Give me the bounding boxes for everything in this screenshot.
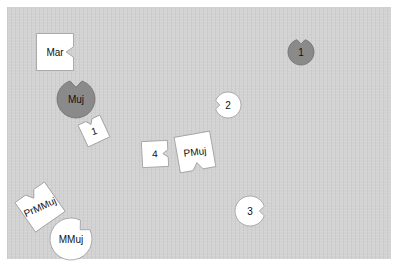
piece-label: Mar	[46, 47, 64, 58]
pieces-layer: MarMuj1124PMuj3PrMMujMMuj	[0, 0, 398, 267]
piece-label: 1	[298, 47, 304, 58]
piece-two[interactable]: 2	[216, 92, 241, 118]
piece-label: 3	[247, 206, 253, 217]
piece-label: 2	[225, 100, 231, 111]
piece-one-dark[interactable]: 1	[288, 40, 314, 65]
piece-muj[interactable]: Muj	[57, 81, 95, 118]
piece-three[interactable]: 3	[235, 196, 264, 226]
piece-label: MMuj	[59, 234, 83, 245]
piece-mmuj[interactable]: MMuj	[50, 218, 92, 260]
piece-four[interactable]: 4	[141, 140, 168, 167]
piece-label: Muj	[68, 94, 84, 105]
piece-pmuj[interactable]: PMuj	[174, 131, 216, 173]
piece-one-square[interactable]: 1	[78, 115, 110, 147]
piece-label: 4	[152, 148, 158, 159]
piece-mar[interactable]: Mar	[37, 34, 74, 71]
